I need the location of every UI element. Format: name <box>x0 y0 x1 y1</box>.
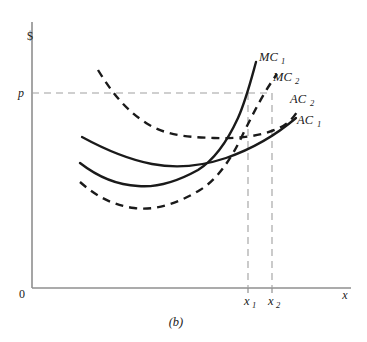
curve-label-MC2: MC 2 <box>272 70 300 86</box>
curve-MC1 <box>80 62 256 186</box>
tick-label-x2-sub: 2 <box>276 300 281 310</box>
tick-label-x1-base: x <box>243 294 250 308</box>
curve-AC2 <box>98 70 297 138</box>
curve-label-MC1-base: MC <box>258 50 278 64</box>
curve-label-MC2-base: MC <box>272 70 292 84</box>
tick-label-x1: x 1 <box>243 294 256 310</box>
economics-cost-curve-figure: $ p 0 x x 1 x 2 MC 1 MC 2 AC 2 <box>0 0 367 342</box>
curve-label-MC1: MC 1 <box>258 50 285 66</box>
tick-label-x2: x 2 <box>267 294 281 310</box>
tick-label-x1-sub: 1 <box>252 300 256 310</box>
x-axis-label: x <box>341 288 348 302</box>
y-axis-label: $ <box>27 29 33 43</box>
curve-AC1 <box>82 118 296 166</box>
origin-label: 0 <box>19 287 25 301</box>
curve-label-AC2: AC 2 <box>289 92 315 108</box>
price-level-label: p <box>17 86 24 100</box>
curve-label-AC2-base: AC <box>289 92 307 106</box>
curve-label-MC2-sub: 2 <box>295 76 300 86</box>
curve-label-AC1-sub: 1 <box>317 119 321 129</box>
tick-label-x2-base: x <box>267 294 274 308</box>
curve-label-AC1-base: AC <box>296 113 314 127</box>
figure-caption: (b) <box>169 315 184 329</box>
curve-label-MC1-sub: 1 <box>281 56 285 66</box>
plot-area: $ p 0 x x 1 x 2 MC 1 MC 2 AC 2 <box>0 0 367 342</box>
curve-label-AC1: AC 1 <box>296 113 321 129</box>
curve-label-AC2-sub: 2 <box>310 98 315 108</box>
